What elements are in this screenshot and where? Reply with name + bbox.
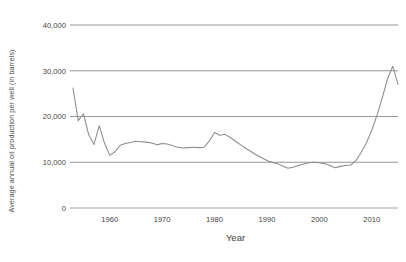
y-tick-labels: 010,00020,00030,00040,000 xyxy=(43,21,66,213)
gridlines xyxy=(73,25,398,208)
y-tick-label: 20,000 xyxy=(43,112,66,121)
x-tick-label: 1960 xyxy=(101,215,118,224)
y-tick-label: 40,000 xyxy=(43,21,66,30)
y-tick-label: 30,000 xyxy=(43,67,66,76)
y-tick-label: 0 xyxy=(62,204,66,213)
plot-area: 010,00020,00030,00040,000 19601970198019… xyxy=(0,0,406,262)
x-tick-label: 1970 xyxy=(154,215,171,224)
x-tick-label: 2000 xyxy=(311,215,328,224)
x-tick-label: 1990 xyxy=(258,215,275,224)
x-tick-label: 2010 xyxy=(363,215,380,224)
data-series-line xyxy=(73,66,398,168)
x-tick-labels: 196019701980199020002010 xyxy=(101,215,380,224)
line-chart: Average annual oil production per well (… xyxy=(0,0,406,262)
y-tick-marks xyxy=(70,25,73,208)
x-tick-label: 1980 xyxy=(206,215,223,224)
x-axis-title: Year xyxy=(73,232,398,243)
y-tick-label: 10,000 xyxy=(43,158,66,167)
